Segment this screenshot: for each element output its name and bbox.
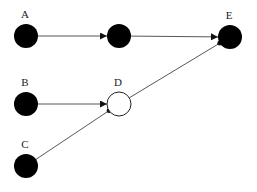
- directed-graph-diagram: AEBDC: [0, 0, 257, 192]
- node-d: [107, 92, 131, 116]
- nodes-layer: [14, 24, 242, 178]
- node-e: [218, 25, 242, 49]
- node-label-a: A: [21, 8, 29, 20]
- node-label-e: E: [226, 9, 233, 21]
- node-unlabeled: [107, 24, 131, 48]
- node-label-b: B: [21, 76, 28, 88]
- node-a: [14, 24, 38, 48]
- node-c: [14, 154, 38, 178]
- edge-c-to-d: [36, 111, 109, 160]
- edge-m-to-e: [131, 36, 218, 37]
- node-label-d: D: [114, 76, 122, 88]
- node-b: [14, 92, 38, 116]
- node-label-c: C: [21, 138, 28, 150]
- edge-d-to-e: [129, 43, 219, 98]
